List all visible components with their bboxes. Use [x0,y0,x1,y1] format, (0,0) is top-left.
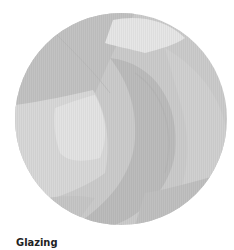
glazing-swatch-illustration [15,13,227,225]
figure-caption: Glazing [16,236,57,249]
